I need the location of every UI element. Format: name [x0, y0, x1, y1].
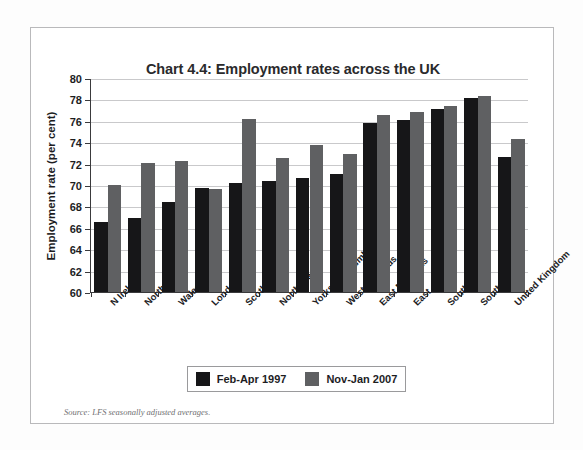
- source-note: Source: LFS seasonally adjusted averages…: [64, 407, 210, 417]
- chart-frame: Chart 4.4: Employment rates across the U…: [30, 27, 554, 424]
- bar: [141, 163, 154, 292]
- bar: [108, 185, 121, 292]
- legend-label: Feb-Apr 1997: [217, 373, 287, 385]
- chart-figure: Chart 4.4: Employment rates across the U…: [0, 0, 583, 450]
- bar-group: [195, 78, 222, 292]
- bar: [410, 112, 423, 292]
- y-tick-mark: [85, 229, 90, 230]
- bar: [262, 181, 275, 292]
- y-tick-label: 70: [70, 180, 82, 192]
- bar-group: [229, 78, 256, 292]
- y-tick-label: 62: [70, 266, 82, 278]
- bar: [94, 222, 107, 292]
- bar-group: [94, 78, 121, 292]
- legend-swatch: [305, 372, 319, 386]
- y-tick-mark: [85, 293, 90, 294]
- y-axis-title: Employment rate (per cent): [43, 79, 59, 293]
- bar-group: [363, 78, 390, 292]
- plot-area: 8078767472706866646260N IrelandNorth Eas…: [90, 79, 527, 293]
- y-tick-label: 78: [70, 94, 82, 106]
- y-tick-label: 74: [70, 137, 82, 149]
- y-tick-label: 68: [70, 201, 82, 213]
- bar: [431, 109, 444, 292]
- bar: [128, 218, 141, 292]
- bar-group: [162, 78, 189, 292]
- bar: [478, 96, 491, 292]
- bar: [209, 189, 222, 292]
- x-tick-mark: [91, 292, 92, 297]
- bar: [229, 183, 242, 292]
- y-tick-label: 66: [70, 223, 82, 235]
- bar: [175, 161, 188, 292]
- bar-group: [498, 78, 525, 292]
- bar-group: [128, 78, 155, 292]
- bar: [310, 145, 323, 292]
- bar: [296, 178, 309, 292]
- bar: [276, 158, 289, 292]
- y-tick-label: 64: [70, 244, 82, 256]
- y-tick-mark: [85, 79, 90, 80]
- y-tick-mark: [85, 207, 90, 208]
- bar: [464, 98, 477, 292]
- y-tick-mark: [85, 250, 90, 251]
- y-axis-title-text: Employment rate (per cent): [45, 112, 57, 261]
- bar: [330, 174, 343, 292]
- bar: [397, 120, 410, 292]
- bar-group: [262, 78, 289, 292]
- bar-group: [397, 78, 424, 292]
- bar: [377, 115, 390, 292]
- bar-group: [330, 78, 357, 292]
- chart-title: Chart 4.4: Employment rates across the U…: [31, 61, 555, 77]
- bar-group: [296, 78, 323, 292]
- legend-item: Feb-Apr 1997: [196, 372, 287, 386]
- bar: [195, 188, 208, 292]
- y-tick-mark: [85, 186, 90, 187]
- bar: [343, 154, 356, 292]
- bar-group: [464, 78, 491, 292]
- y-tick-label: 60: [70, 287, 82, 299]
- y-tick-mark: [85, 165, 90, 166]
- bar: [444, 106, 457, 292]
- y-tick-mark: [85, 122, 90, 123]
- y-tick-label: 72: [70, 159, 82, 171]
- y-tick-mark: [85, 100, 90, 101]
- chart-legend: Feb-Apr 1997Nov-Jan 2007: [187, 366, 406, 392]
- y-tick-mark: [85, 272, 90, 273]
- bar: [498, 157, 511, 292]
- legend-swatch: [196, 372, 210, 386]
- bar: [162, 202, 175, 292]
- y-tick-label: 76: [70, 116, 82, 128]
- y-tick-label: 80: [70, 73, 82, 85]
- legend-item: Nov-Jan 2007: [305, 372, 397, 386]
- bar-group: [431, 78, 458, 292]
- y-tick-mark: [85, 143, 90, 144]
- bar: [511, 139, 524, 292]
- legend-label: Nov-Jan 2007: [326, 373, 397, 385]
- bar: [242, 119, 255, 292]
- bar: [363, 123, 376, 292]
